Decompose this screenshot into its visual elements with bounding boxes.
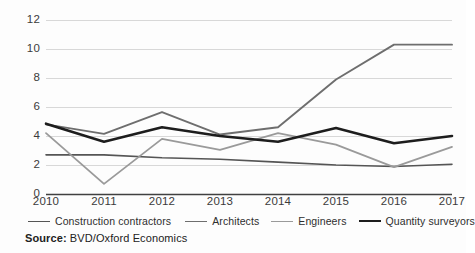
chart-legend: Construction contractorsArchitectsEngine…: [0, 213, 466, 229]
source-value: BVD/Oxford Economics: [67, 232, 188, 244]
y-tick-label: 12: [14, 14, 40, 26]
x-tick-label: 2016: [371, 196, 417, 208]
line-swatch-icon: [185, 221, 207, 222]
y-tick-label: 4: [14, 130, 40, 142]
plot-area: 024681012: [0, 0, 466, 205]
source-note: Source: BVD/Oxford Economics: [25, 233, 187, 244]
x-axis-labels: 20102011201220132014201520162017: [0, 196, 466, 214]
line-swatch-icon: [271, 221, 293, 222]
x-tick-label: 2013: [197, 196, 243, 208]
y-tick-label: 10: [14, 43, 40, 55]
series-line: [46, 155, 452, 167]
x-tick-label: 2010: [23, 196, 69, 208]
legend-label: Architects: [212, 216, 259, 227]
legend-label: Engineers: [298, 216, 346, 227]
legend-item[interactable]: Architects: [185, 216, 259, 227]
x-tick-label: 2012: [139, 196, 185, 208]
legend-label: Quantity surveyors: [386, 216, 475, 227]
x-tick-label: 2015: [313, 196, 359, 208]
legend-item[interactable]: Quantity surveyors: [359, 216, 475, 227]
legend-item[interactable]: Engineers: [271, 216, 346, 227]
y-tick-label: 2: [14, 159, 40, 171]
x-tick-label: 2011: [81, 196, 127, 208]
y-tick-label: 8: [14, 72, 40, 84]
legend-label: Construction contractors: [55, 216, 171, 227]
x-tick-label: 2014: [255, 196, 301, 208]
line-swatch-icon: [28, 221, 50, 222]
source-label: Source:: [25, 232, 67, 244]
series-line: [46, 45, 452, 135]
series-lines: [46, 45, 452, 184]
x-tick-label: 2017: [429, 196, 475, 208]
line-swatch-icon: [359, 220, 381, 222]
plot-svg: [0, 0, 466, 205]
legend-item[interactable]: Construction contractors: [28, 216, 171, 227]
y-tick-label: 6: [14, 101, 40, 113]
